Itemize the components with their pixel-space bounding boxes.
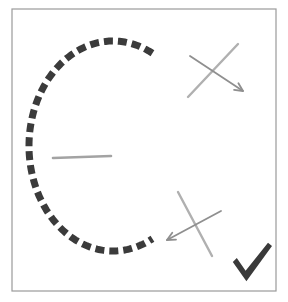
figure-canvas [0,0,288,302]
canvas-background [0,0,288,302]
figure-root: Dashed circular arc with directional ann… [0,0,288,302]
